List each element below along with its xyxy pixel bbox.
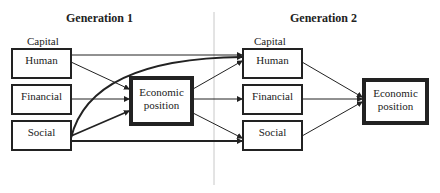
gen1-human-box: Human xyxy=(11,48,72,79)
gen1-social-box: Social xyxy=(11,120,72,151)
edge-gen1-human-to-econ xyxy=(71,62,129,89)
edge-gen1-econ-to-gen2-human xyxy=(193,61,242,89)
gen1-capital-label: Capital xyxy=(27,35,59,47)
gen2-capital-label: Capital xyxy=(254,35,286,47)
gen1-economic-position-label: Economic position xyxy=(133,86,190,112)
edge-gen1-econ-to-gen2-social xyxy=(193,113,242,138)
edge-gen2-human-to-econ xyxy=(302,62,362,97)
gen2-social-box: Social xyxy=(242,120,303,151)
gen2-economic-position-box: Economic position xyxy=(362,78,429,125)
gen1-economic-position-box: Economic position xyxy=(129,76,194,126)
generation-1-title: Generation 1 xyxy=(66,11,133,26)
gen1-financial-box: Financial xyxy=(11,84,72,115)
diagram-canvas: Generation 1 Generation 2 Capital Capita… xyxy=(0,0,440,193)
gen2-financial-box: Financial xyxy=(242,84,303,115)
edge-gen2-social-to-econ xyxy=(302,102,362,136)
gen2-economic-position-label: Economic position xyxy=(366,87,425,113)
generation-2-title: Generation 2 xyxy=(290,11,357,26)
gen2-human-box: Human xyxy=(242,48,303,79)
